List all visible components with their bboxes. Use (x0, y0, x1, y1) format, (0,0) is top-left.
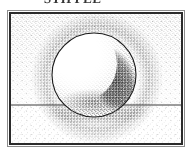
drawing-scene (11, 14, 181, 143)
frame-inner-border (9, 12, 183, 145)
stipple-sphere-figure: STIPPLE (0, 0, 192, 152)
sphere (52, 33, 136, 117)
stipple-drawing-svg (11, 14, 181, 143)
figure-caption-text: STIPPLE (43, 0, 102, 7)
caption-clip-strip: STIPPLE (0, 0, 192, 8)
